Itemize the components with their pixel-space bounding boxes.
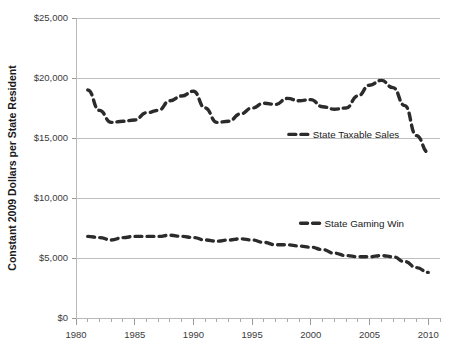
chart-legend: State Taxable SalesState Gaming Win	[289, 129, 404, 229]
series-line-state-gaming-win	[88, 235, 429, 272]
x-tick-label-1995: 1995	[242, 329, 263, 340]
x-tick-label-2010: 2010	[418, 329, 439, 340]
x-tick-label-2000: 2000	[300, 329, 321, 340]
axes-group	[76, 18, 440, 318]
y-tick-label-15000: $15,000	[34, 132, 68, 143]
legend-label-state-taxable-sales: State Taxable Sales	[313, 129, 400, 140]
tickmarks-group	[72, 18, 440, 325]
legend-label-state-gaming-win: State Gaming Win	[325, 218, 405, 229]
x-tick-label-1985: 1985	[124, 329, 145, 340]
series-line-state-taxable-sales	[88, 80, 429, 152]
y-tick-label-20000: $20,000	[34, 72, 68, 83]
x-axis-tick-labels: 1980198519901995200020052010	[65, 329, 438, 340]
x-tick-label-1990: 1990	[183, 329, 204, 340]
y-tick-label-25000: $25,000	[34, 12, 68, 23]
y-axis-title: Constant 2009 Dollars per State Resident	[6, 65, 18, 271]
y-tick-label-10000: $10,000	[34, 192, 68, 203]
y-tick-label-0: $0	[57, 312, 68, 323]
chart-container: $0$5,000$10,000$15,000$20,000$25,000 198…	[0, 0, 452, 355]
line-chart: $0$5,000$10,000$15,000$20,000$25,000 198…	[0, 0, 452, 355]
x-tick-label-1980: 1980	[65, 329, 86, 340]
data-series-group	[88, 80, 429, 272]
y-tick-label-5000: $5,000	[39, 252, 68, 263]
y-axis-tick-labels: $0$5,000$10,000$15,000$20,000$25,000	[34, 12, 68, 323]
x-tick-label-2005: 2005	[359, 329, 380, 340]
gridlines-group	[76, 18, 440, 318]
